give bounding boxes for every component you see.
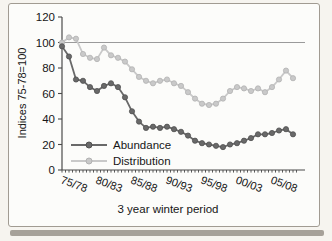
distribution-marker [269,85,274,90]
abundance-marker [192,138,197,143]
distribution-marker [213,101,218,106]
distribution-marker [101,45,106,50]
abundance-marker [164,124,169,129]
abundance-marker [129,109,134,114]
distribution-marker [108,53,113,58]
abundance-marker [283,127,288,132]
distribution-marker [171,81,176,86]
scan-shadow [10,230,324,236]
x-tick-label: 00/03 [234,174,264,195]
legend-item-distribution: Distribution [70,154,171,168]
abundance-marker [150,124,155,129]
abundance-marker [255,132,260,137]
abundance-marker [262,132,267,137]
y-tick-label: 100 [36,37,55,49]
x-tick-label: 05/08 [269,174,299,195]
y-tick-label: 80 [42,62,55,74]
abundance-marker [213,143,218,148]
distribution-marker [185,90,190,95]
abundance-marker [227,142,232,147]
distribution-marker [157,78,162,83]
legend-label-abundance: Abundance [113,139,171,152]
distribution-marker [255,86,260,91]
abundance-marker [59,44,64,49]
abundance-marker [276,128,281,133]
x-axis-title: 3 year winter period [103,203,233,215]
abundance-marker [108,81,113,86]
distribution-marker [220,96,225,101]
abundance-marker [269,130,274,135]
abundance-marker [248,136,253,141]
abundance-marker [157,125,162,130]
distribution-marker [122,59,127,64]
legend: Abundance Distribution [70,138,171,168]
abundance-line-sample-icon [70,139,108,151]
abundance-marker [80,78,85,83]
abundance-marker [73,77,78,82]
x-tick-label: 95/98 [199,174,229,195]
abundance-marker [185,133,190,138]
abundance-marker [115,85,120,90]
distribution-marker [164,77,169,82]
abundance-marker [87,85,92,90]
abundance-marker [206,142,211,147]
distribution-line-sample-icon [70,155,108,167]
abundance-marker [178,129,183,134]
distribution-marker [227,88,232,93]
x-tick-label: 90/93 [164,174,194,195]
y-tick-label: 40 [42,113,55,125]
abundance-marker [220,145,225,150]
distribution-marker [73,36,78,41]
abundance-marker [136,119,141,124]
abundance-marker [171,127,176,132]
x-tick-label: 75/78 [59,174,89,195]
distribution-marker [290,76,295,81]
distribution-marker [241,86,246,91]
distribution-marker [136,74,141,79]
distribution-marker [150,81,155,86]
abundance-marker [122,95,127,100]
y-tick-label: 20 [42,139,55,151]
abundance-marker [199,141,204,146]
distribution-marker [206,102,211,107]
distribution-marker [80,51,85,56]
distribution-marker [262,90,267,95]
distribution-marker [129,67,134,72]
abundance-marker [290,132,295,137]
abundance-marker [101,83,106,88]
y-tick-label: 60 [42,88,55,100]
distribution-marker [199,101,204,106]
distribution-marker [283,68,288,73]
distribution-marker [143,78,148,83]
distribution-marker [276,77,281,82]
abundance-marker [241,138,246,143]
distribution-marker [66,35,71,40]
x-tick-label: 80/83 [94,174,124,195]
y-axis-title: Indices 75-78=100 [16,37,30,149]
distribution-marker [115,55,120,60]
legend-label-distribution: Distribution [113,155,171,168]
abundance-marker [143,125,148,130]
y-tick-label: 0 [49,164,55,176]
distribution-marker [94,57,99,62]
abundance-marker [94,88,99,93]
distribution-marker [234,85,239,90]
y-tick-label: 120 [36,11,55,23]
distribution-marker [87,55,92,60]
distribution-marker [178,83,183,88]
abundance-marker [234,141,239,146]
legend-item-abundance: Abundance [70,138,171,152]
abundance-marker [66,54,71,59]
distribution-marker [248,88,253,93]
x-tick-label: 85/88 [129,174,159,195]
distribution-line [62,37,293,105]
distribution-marker [192,96,197,101]
